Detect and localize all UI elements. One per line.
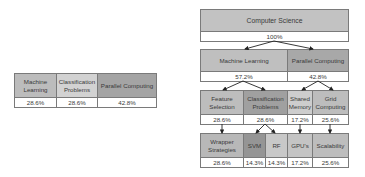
tree-connector-arrows bbox=[0, 0, 365, 177]
